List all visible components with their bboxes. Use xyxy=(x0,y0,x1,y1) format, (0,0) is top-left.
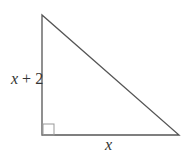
vertical-side-offset: + 2 xyxy=(18,70,43,87)
vertical-side-label: x + 2 xyxy=(11,71,43,87)
right-angle-marker xyxy=(43,124,54,135)
horizontal-side-label: x xyxy=(105,137,112,153)
right-triangle xyxy=(42,15,179,135)
